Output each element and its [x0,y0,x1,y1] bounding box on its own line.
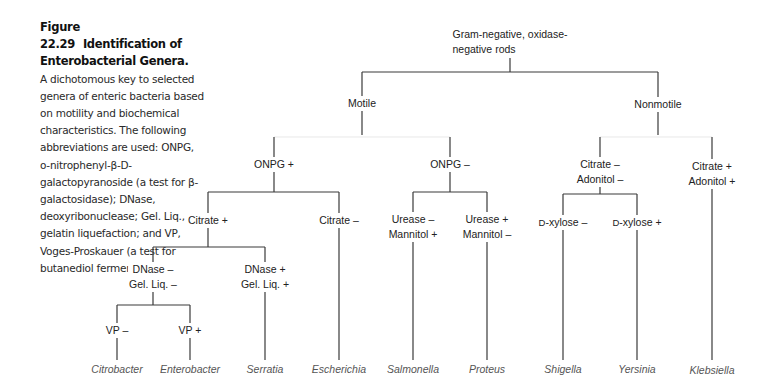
citrate-adonitol-negative-node: Citrate – Adonitol – [576,157,625,187]
vp-positive-node: VP + [178,323,203,338]
nonmotile-node: Nonmotile [633,97,682,112]
urease-positive-line-1: Urease + [463,212,511,227]
root-line-2: negative rods [453,42,568,57]
genus-yersinia: Yersinia [617,362,656,377]
d-xylose-negative-node: D-xylose – [538,215,589,230]
dnase-negative-line-2: Gel. Liq. – [129,277,177,292]
genus-citrobacter: Citrobacter [90,362,143,377]
citrate-positive-node: Citrate + [187,213,229,228]
dnase-negative-line-1: DNase – [129,262,177,277]
d-prefix: D [539,217,546,228]
xylose-negative-text: -xylose – [545,216,587,228]
citrate-adonitol-negative-line-1: Citrate – [577,157,624,172]
citrate-adonitol-negative-line-2: Adonitol – [577,172,624,187]
root-node: Gram-negative, oxidase- negative rods [452,27,569,57]
genus-enterobacter: Enterobacter [159,362,221,377]
dnase-positive-line-1: DNase + [241,262,289,277]
genus-proteus: Proteus [468,362,506,377]
onpg-negative-node: ONPG – [429,157,471,172]
citrate-negative-node: Citrate – [318,213,360,228]
citrate-adonitol-positive-line-1: Citrate + [689,159,736,174]
root-line-1: Gram-negative, oxidase- [453,27,568,42]
xylose-positive-text: -xylose + [619,216,661,228]
genus-serratia: Serratia [246,362,285,377]
urease-positive-line-2: Mannitol – [463,227,511,242]
motile-node: Motile [347,96,377,111]
d-xylose-positive-node: D-xylose + [611,215,662,230]
citrate-adonitol-positive-line-2: Adonitol + [689,174,736,189]
genus-escherichia: Escherichia [311,362,367,377]
genus-salmonella: Salmonella [386,362,440,377]
genus-klebsiella: Klebsiella [689,363,736,378]
urease-positive-node: Urease + Mannitol – [462,212,512,242]
dnase-positive-node: DNase + Gel. Liq. + [240,262,290,292]
dnase-positive-line-2: Gel. Liq. + [241,277,289,292]
urease-negative-node: Urease – Mannitol + [388,212,439,242]
genus-shigella: Shigella [543,362,582,377]
urease-negative-line-2: Mannitol + [389,227,438,242]
citrate-adonitol-positive-node: Citrate + Adonitol + [688,159,737,189]
urease-negative-line-1: Urease – [389,212,438,227]
onpg-positive-node: ONPG + [253,157,295,172]
vp-negative-node: VP – [105,323,130,338]
dnase-negative-node: DNase – Gel. Liq. – [128,262,178,292]
d-prefix: D [612,217,619,228]
